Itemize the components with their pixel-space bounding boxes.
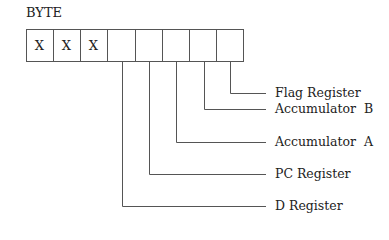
pc-register-label: PC Register (275, 168, 351, 181)
acc-b-connector (205, 62, 267, 110)
bit-cell-1: X (53, 38, 80, 53)
flag-register-label: Flag Register (275, 87, 361, 100)
bit-cell-2: X (80, 38, 107, 53)
pc-connector (150, 62, 267, 175)
acc-a-connector (177, 62, 267, 143)
flag-connector (231, 62, 267, 94)
accumulator-a-label: Accumulator A (275, 136, 373, 149)
d-connector (123, 62, 267, 207)
accumulator-b-label: Accumulator B (275, 103, 373, 116)
bit-cell-0: X (26, 38, 53, 53)
d-register-label: D Register (275, 200, 343, 213)
